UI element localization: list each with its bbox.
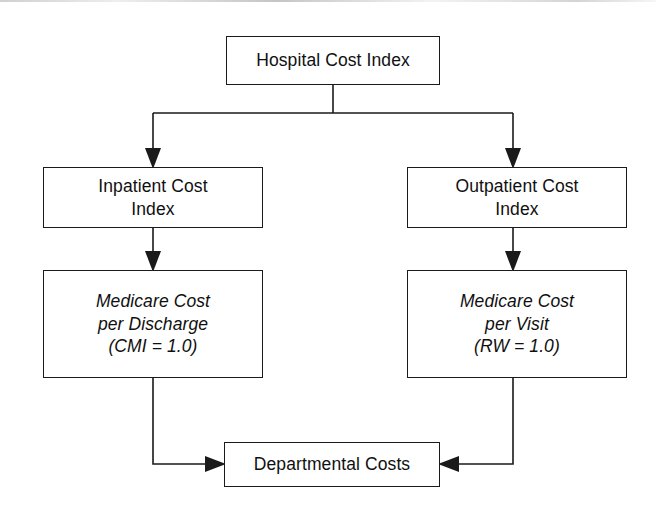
node-label-inpatient-cost-index: Inpatient Cost Index	[98, 175, 207, 221]
node-departmental-costs[interactable]: Departmental Costs	[224, 442, 440, 487]
arrowhead-down-discharge	[145, 251, 161, 272]
connector-visit-to-departmental	[455, 378, 513, 464]
arrowhead-down-outpatient	[505, 148, 521, 169]
node-label-hospital-cost-index: Hospital Cost Index	[256, 49, 410, 72]
arrowhead-down-visit	[505, 251, 521, 272]
node-inpatient-cost-index[interactable]: Inpatient Cost Index	[43, 167, 263, 228]
node-medicare-cost-per-discharge[interactable]: Medicare Cost per Discharge (CMI = 1.0)	[43, 270, 263, 378]
arrowhead-down-inpatient	[145, 148, 161, 169]
arrowhead-left-departmental	[438, 456, 459, 472]
connector-discharge-to-departmental	[153, 378, 209, 464]
node-label-outpatient-cost-index: Outpatient Cost Index	[455, 175, 578, 221]
arrowhead-right-departmental	[205, 456, 226, 472]
node-label-medicare-cost-per-visit: Medicare Cost per Visit (RW = 1.0)	[460, 290, 574, 358]
node-outpatient-cost-index[interactable]: Outpatient Cost Index	[407, 167, 627, 228]
node-hospital-cost-index[interactable]: Hospital Cost Index	[226, 36, 440, 85]
flowchart-canvas: Hospital Cost Index Inpatient Cost Index…	[0, 0, 656, 515]
node-label-medicare-cost-per-discharge: Medicare Cost per Discharge (CMI = 1.0)	[96, 290, 210, 358]
node-medicare-cost-per-visit[interactable]: Medicare Cost per Visit (RW = 1.0)	[407, 270, 627, 378]
node-label-departmental-costs: Departmental Costs	[254, 453, 410, 476]
